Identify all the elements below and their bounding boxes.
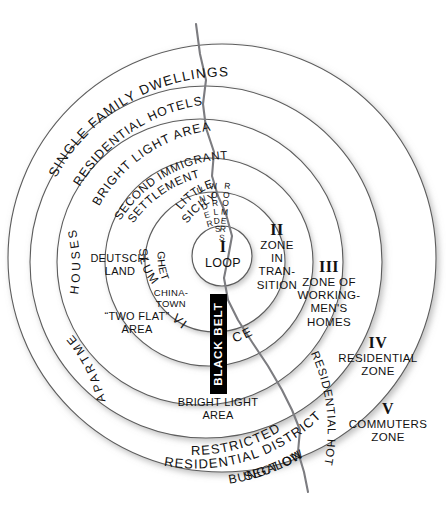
- bright-light-inner-line-1: BRIGHT LIGHT: [152, 396, 284, 409]
- zone-v-line-1: COMMUTERS: [340, 418, 436, 431]
- zone-iii-numeral: III: [288, 258, 370, 276]
- black-belt-label: BLACK BELT: [212, 294, 224, 394]
- deutschland-line-2: LAND: [82, 265, 158, 278]
- zone-ii-line-1: ZONE: [246, 239, 308, 252]
- zone-iv-block: IV RESIDENTIAL ZONE: [330, 334, 426, 378]
- zone-i-name: LOOP: [202, 256, 244, 270]
- zone-v-numeral: V: [340, 400, 436, 418]
- two-flat-line-2: AREA: [92, 323, 182, 336]
- label-bright-light-area-inner: BRIGHT LIGHT AREA: [152, 396, 284, 421]
- zone-iii-line-2: WORKING-: [288, 289, 370, 302]
- zone-iii-line-1: ZONE OF: [288, 276, 370, 289]
- label-chinatown: CHINA- TOWN: [140, 288, 202, 310]
- label-deutschland: DEUTSCH- LAND: [82, 252, 158, 277]
- deutschland-line-1: DEUTSCH-: [82, 252, 158, 265]
- roomers-l7: S: [215, 233, 230, 243]
- zone-iv-line-1: RESIDENTIAL: [330, 352, 426, 365]
- two-flat-line-1: “TWO FLAT”: [92, 310, 182, 323]
- burgess-concentric-zone-diagram: SINGLE FAMILY DWELLINGS RESIDENTIAL HOTE…: [0, 0, 446, 510]
- zone-i-block: I LOOP: [202, 238, 244, 270]
- bright-light-inner-line-2: AREA: [152, 409, 284, 422]
- zone-iii-line-3: MEN'S: [288, 302, 370, 315]
- zone-iii-block: III ZONE OF WORKING- MEN'S HOMES: [288, 258, 370, 329]
- zone-v-line-2: ZONE: [340, 431, 436, 444]
- zone-ii-numeral: II: [246, 221, 308, 239]
- zone-iv-line-2: ZONE: [330, 365, 426, 378]
- label-two-flat-area: “TWO FLAT” AREA: [92, 310, 182, 335]
- zone-iii-line-4: HOMES: [288, 316, 370, 329]
- chinatown-line-2: TOWN: [140, 299, 202, 310]
- zone-iv-numeral: IV: [330, 334, 426, 352]
- zone-v-block: V COMMUTERS ZONE: [340, 400, 436, 444]
